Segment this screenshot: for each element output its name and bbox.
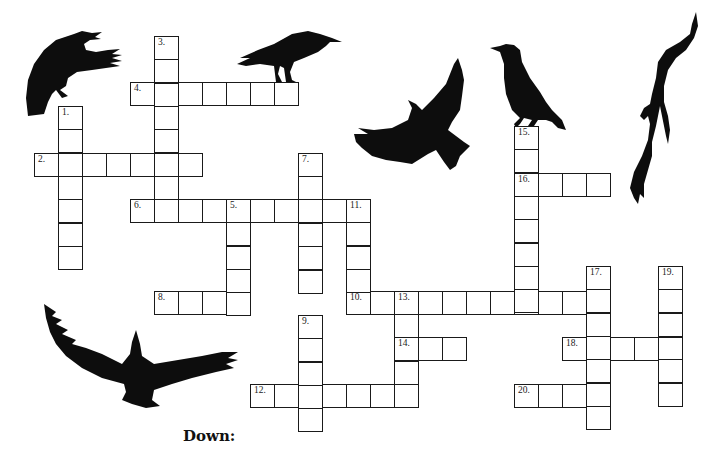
crossword-cell[interactable] bbox=[322, 384, 347, 408]
crossword-cell[interactable] bbox=[442, 291, 467, 315]
crossword-cell[interactable] bbox=[274, 384, 299, 408]
crossword-cell[interactable] bbox=[658, 383, 683, 407]
crossword-cell[interactable] bbox=[418, 291, 443, 315]
crossword-cell[interactable]: 11. bbox=[346, 199, 371, 223]
crossword-cell[interactable] bbox=[394, 361, 419, 385]
crossword-cell[interactable] bbox=[226, 246, 251, 270]
crossword-cell[interactable]: 2. bbox=[34, 153, 59, 177]
crossword-cell[interactable] bbox=[202, 199, 227, 223]
crossword-cell[interactable] bbox=[226, 82, 251, 106]
crossword-cell[interactable] bbox=[298, 408, 323, 432]
crossword-cell[interactable] bbox=[298, 270, 323, 294]
crossword-cell[interactable] bbox=[178, 153, 203, 177]
crossword-cell[interactable] bbox=[322, 199, 347, 223]
crossword-cell[interactable] bbox=[346, 384, 371, 408]
crossword-cell[interactable] bbox=[298, 199, 323, 223]
crossword-cell[interactable]: 4. bbox=[130, 82, 155, 106]
crossword-cell[interactable] bbox=[154, 59, 179, 83]
crossword-cell[interactable] bbox=[586, 336, 611, 360]
crossword-cell[interactable] bbox=[154, 106, 179, 130]
crossword-cell[interactable]: 3. bbox=[154, 36, 179, 60]
crossword-cell[interactable]: 9. bbox=[298, 315, 323, 339]
crossword-cell[interactable]: 15. bbox=[514, 126, 539, 150]
crossword-cell[interactable] bbox=[346, 222, 371, 246]
crossword-cell[interactable] bbox=[658, 313, 683, 337]
crossword-cell[interactable] bbox=[346, 269, 371, 293]
crossword-cell[interactable] bbox=[250, 199, 275, 223]
crossword-cell[interactable] bbox=[538, 291, 563, 315]
crossword-cell[interactable] bbox=[154, 129, 179, 153]
crossword-cell[interactable] bbox=[58, 223, 83, 247]
crossword-cell[interactable] bbox=[490, 291, 515, 315]
crossword-cell[interactable] bbox=[514, 149, 539, 173]
crossword-cell[interactable] bbox=[514, 243, 539, 267]
crossword-cell[interactable] bbox=[586, 406, 611, 430]
crossword-cell[interactable] bbox=[370, 291, 395, 315]
crossword-cell[interactable] bbox=[610, 337, 635, 361]
crossword-cell[interactable] bbox=[298, 385, 323, 409]
crossword-cell[interactable] bbox=[586, 289, 611, 313]
crossword-cell[interactable] bbox=[394, 384, 419, 408]
crossword-cell[interactable] bbox=[658, 359, 683, 383]
crossword-cell[interactable] bbox=[154, 199, 179, 223]
crossword-cell[interactable] bbox=[58, 153, 83, 177]
crossword-cell[interactable]: 19. bbox=[658, 266, 683, 290]
crossword-cell[interactable] bbox=[250, 82, 275, 106]
crossword-cell[interactable] bbox=[586, 173, 611, 197]
crossword-cell[interactable]: 5. bbox=[226, 199, 251, 223]
crossword-cell[interactable]: 10. bbox=[346, 291, 371, 315]
crossword-cell[interactable] bbox=[466, 291, 491, 315]
crossword-cell[interactable] bbox=[58, 246, 83, 270]
crossword-cell[interactable] bbox=[226, 222, 251, 246]
crossword-cell[interactable]: 7. bbox=[298, 153, 323, 177]
crossword-cell[interactable] bbox=[58, 176, 83, 200]
crossword-cell[interactable] bbox=[178, 82, 203, 106]
crossword-cell[interactable]: 13. bbox=[394, 291, 419, 315]
crossword-cell[interactable] bbox=[298, 362, 323, 386]
crossword-cell[interactable] bbox=[370, 384, 395, 408]
crossword-cell[interactable] bbox=[202, 291, 227, 315]
crossword-cell[interactable] bbox=[106, 153, 131, 177]
crossword-cell[interactable] bbox=[394, 314, 419, 338]
crossword-cell[interactable] bbox=[298, 338, 323, 362]
crossword-cell[interactable] bbox=[274, 82, 299, 106]
crossword-cell[interactable]: 16. bbox=[514, 173, 539, 197]
crossword-cell[interactable] bbox=[82, 153, 107, 177]
crossword-cell[interactable] bbox=[298, 176, 323, 200]
crossword-cell[interactable]: 1. bbox=[58, 106, 83, 130]
crossword-cell[interactable]: 14. bbox=[394, 337, 419, 361]
crossword-cell[interactable]: 17. bbox=[586, 266, 611, 290]
crossword-cell[interactable] bbox=[154, 176, 179, 200]
crossword-cell[interactable] bbox=[346, 246, 371, 270]
crossword-cell[interactable] bbox=[658, 289, 683, 313]
crossword-cell[interactable]: 18. bbox=[562, 337, 587, 361]
crossword-cell[interactable]: 8. bbox=[154, 291, 179, 315]
crossword-cell[interactable] bbox=[178, 291, 203, 315]
crossword-cell[interactable] bbox=[154, 153, 179, 177]
crossword-cell[interactable] bbox=[58, 129, 83, 153]
crossword-cell[interactable] bbox=[586, 383, 611, 407]
crossword-cell[interactable] bbox=[514, 289, 539, 313]
crossword-cell[interactable] bbox=[514, 219, 539, 243]
crossword-cell[interactable] bbox=[562, 384, 587, 408]
crossword-cell[interactable]: 12. bbox=[250, 384, 275, 408]
crossword-cell[interactable] bbox=[586, 359, 611, 383]
crossword-cell[interactable] bbox=[538, 173, 563, 197]
crossword-cell[interactable] bbox=[418, 337, 443, 361]
crossword-cell[interactable] bbox=[538, 384, 563, 408]
crossword-cell[interactable] bbox=[562, 291, 587, 315]
crossword-cell[interactable] bbox=[274, 199, 299, 223]
crossword-cell[interactable] bbox=[298, 246, 323, 270]
crossword-cell[interactable] bbox=[130, 153, 155, 177]
crossword-cell[interactable] bbox=[226, 269, 251, 293]
crossword-cell[interactable] bbox=[202, 82, 227, 106]
crossword-cell[interactable] bbox=[226, 292, 251, 316]
crossword-cell[interactable] bbox=[586, 313, 611, 337]
crossword-cell[interactable] bbox=[658, 337, 683, 361]
crossword-cell[interactable]: 6. bbox=[130, 199, 155, 223]
crossword-cell[interactable] bbox=[514, 196, 539, 220]
crossword-cell[interactable]: 20. bbox=[514, 384, 539, 408]
crossword-cell[interactable] bbox=[58, 199, 83, 223]
crossword-cell[interactable] bbox=[514, 266, 539, 290]
crossword-cell[interactable] bbox=[634, 337, 659, 361]
